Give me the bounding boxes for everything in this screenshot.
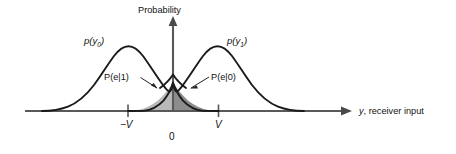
annotation-error-given-0-leader-line bbox=[191, 77, 209, 88]
curve-label-p-y0: p(y0) bbox=[83, 35, 104, 48]
annotation-error-given-0: P(e|0) bbox=[190, 72, 236, 89]
curve-label-p-y1: p(y1) bbox=[226, 35, 247, 48]
x-axis-title-rest: , receiver input bbox=[364, 106, 425, 116]
annotation-error-given-1-arrow-icon bbox=[151, 83, 158, 89]
annotation-error-given-1: P(e|1) bbox=[104, 72, 158, 89]
curve-label-p-y1-close: ) bbox=[243, 35, 247, 46]
annotation-error-given-1-label: P(e|1) bbox=[104, 72, 129, 82]
annotation-error-given-0-label: P(e|0) bbox=[211, 72, 236, 82]
x-axis-arrow-icon bbox=[341, 107, 352, 116]
svg-text:p(y0): p(y0) bbox=[83, 35, 104, 48]
x-tick-label-plus-v: V bbox=[215, 119, 223, 130]
curve-p-y0 bbox=[42, 46, 219, 111]
x-tick-label-origin: 0 bbox=[169, 131, 175, 142]
y-axis-title: Probability bbox=[138, 5, 181, 15]
x-axis-title: y, receiver input bbox=[358, 106, 424, 116]
probability-density-figure: P(e|1) P(e|0) p(y0) p(y1) Probability −V… bbox=[0, 0, 456, 154]
x-tick-label-minus-v: −V bbox=[120, 119, 134, 130]
curve-label-p-y0-close: ) bbox=[100, 35, 104, 46]
y-axis-arrow-icon bbox=[169, 16, 178, 26]
figure-canvas: P(e|1) P(e|0) p(y0) p(y1) Probability −V… bbox=[0, 0, 456, 154]
svg-text:p(y1): p(y1) bbox=[226, 35, 247, 48]
